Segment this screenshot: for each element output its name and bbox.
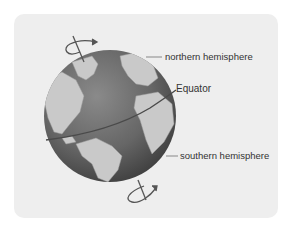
label-equator: Equator <box>176 83 211 94</box>
globe <box>44 50 176 182</box>
label-northern-hemisphere: northern hemisphere <box>165 51 253 62</box>
globe-diagram <box>0 0 292 229</box>
label-southern-hemisphere: southern hemisphere <box>180 150 269 161</box>
rotation-arrow-icon <box>128 180 157 202</box>
